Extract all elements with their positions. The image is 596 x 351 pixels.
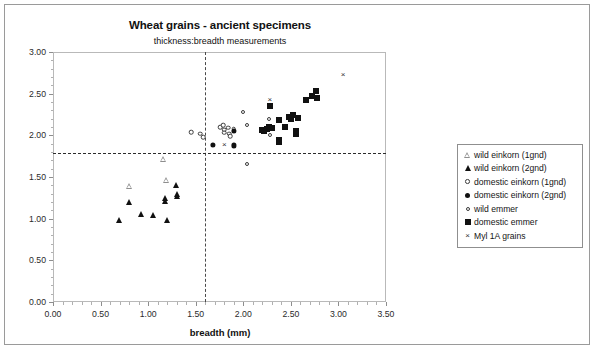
data-point <box>295 115 301 121</box>
marker-triangle-open-icon <box>126 183 132 189</box>
marker-circle-open-small-icon <box>241 110 245 114</box>
data-point <box>313 88 319 94</box>
x-axis-minor-tick <box>110 302 111 305</box>
data-point <box>126 199 132 205</box>
legend-item[interactable]: domestic einkorn (1gnd) <box>462 175 578 189</box>
x-axis-minor-tick <box>281 302 282 305</box>
y-axis-tick-mark <box>49 94 53 95</box>
x-axis-tick-label: 1.50 <box>187 309 204 319</box>
chart-frame: Wheat grains - ancient specimens thickne… <box>4 4 590 345</box>
chart-subtitle: thickness:breadth measurements <box>5 36 435 46</box>
data-point <box>245 123 249 127</box>
data-point: × <box>222 141 227 149</box>
x-axis-minor-tick <box>357 302 358 305</box>
marker-x-icon: × <box>341 71 346 79</box>
legend-item[interactable]: domestic emmer <box>462 216 578 230</box>
marker-x-icon: × <box>465 232 470 240</box>
marker-circle-open-icon <box>201 135 206 140</box>
y-axis-minor-tick <box>51 244 54 245</box>
data-point <box>231 143 236 148</box>
x-axis-minor-tick <box>272 302 273 305</box>
chart-legend: wild einkorn (1gnd)wild einkorn (2gnd)do… <box>457 144 583 248</box>
y-axis-tick-mark <box>49 219 53 220</box>
y-axis-tick-mark <box>49 135 53 136</box>
x-axis-tick-label: 3.00 <box>330 309 347 319</box>
data-point <box>245 162 249 166</box>
marker-square-filled-icon <box>293 131 299 137</box>
data-point <box>138 211 144 217</box>
x-axis-tick-label: 0.50 <box>92 309 109 319</box>
marker-triangle-filled-icon <box>150 212 156 218</box>
y-axis-minor-tick <box>51 252 54 253</box>
data-point <box>189 130 194 135</box>
x-axis-minor-tick <box>63 302 64 305</box>
legend-marker <box>462 190 473 201</box>
marker-triangle-filled-icon <box>164 217 170 223</box>
vertical-breadth-threshold <box>205 52 206 302</box>
legend-item[interactable]: wild emmer <box>462 202 578 216</box>
legend-item[interactable]: wild einkorn (1gnd) <box>462 148 578 162</box>
x-axis-minor-tick <box>329 302 330 305</box>
y-axis-minor-tick <box>51 77 54 78</box>
x-axis-minor-tick <box>234 302 235 305</box>
marker-square-filled-icon <box>295 115 301 121</box>
legend-item[interactable]: wild einkorn (2gnd) <box>462 162 578 176</box>
marker-circle-open-small-icon <box>245 162 249 166</box>
data-point <box>163 177 169 183</box>
x-axis-minor-tick <box>177 302 178 305</box>
marker-triangle-filled-icon <box>465 165 471 171</box>
x-axis-minor-tick <box>205 302 206 305</box>
data-point <box>241 110 245 114</box>
data-point <box>267 117 271 121</box>
marker-square-filled-icon <box>314 95 320 101</box>
data-point <box>231 129 236 134</box>
legend-label: wild emmer <box>473 204 518 214</box>
data-point <box>160 156 166 162</box>
data-point <box>210 142 215 147</box>
marker-circle-open-small-icon <box>267 117 271 121</box>
x-axis-minor-tick <box>91 302 92 305</box>
legend-marker <box>462 176 473 187</box>
marker-triangle-open-icon <box>160 156 166 162</box>
legend-marker <box>462 149 473 160</box>
marker-x-icon: × <box>222 141 227 149</box>
y-axis-minor-tick <box>51 269 54 270</box>
legend-label: Myl 1A grains <box>473 231 526 241</box>
chart-title: Wheat grains - ancient specimens <box>5 19 435 31</box>
x-axis-tick-mark <box>101 302 102 306</box>
x-axis-tick-mark <box>338 302 339 306</box>
legend-marker <box>462 203 473 214</box>
x-axis-minor-tick <box>300 302 301 305</box>
marker-square-filled-icon <box>276 117 282 123</box>
marker-circle-filled-icon <box>465 193 470 198</box>
x-axis-minor-tick <box>120 302 121 305</box>
x-axis-minor-tick <box>186 302 187 305</box>
x-axis-minor-tick <box>82 302 83 305</box>
y-axis-minor-tick <box>51 202 54 203</box>
legend-marker: × <box>462 230 473 241</box>
marker-triangle-filled-icon <box>126 199 132 205</box>
plot-border <box>53 52 386 302</box>
y-axis-minor-tick <box>51 235 54 236</box>
x-axis-minor-tick <box>167 302 168 305</box>
marker-triangle-filled-icon <box>116 217 122 223</box>
data-point: × <box>268 96 273 104</box>
x-axis-tick-mark <box>53 302 54 306</box>
plot-area: 0.000.501.001.502.002.503.000.000.501.00… <box>53 52 386 302</box>
marker-circle-filled-icon <box>210 142 215 147</box>
x-axis-minor-tick <box>376 302 377 305</box>
y-axis-tick-mark <box>49 52 53 53</box>
x-axis-minor-tick <box>139 302 140 305</box>
legend-label: domestic einkorn (1gnd) <box>473 177 566 187</box>
marker-circle-filled-icon <box>231 129 236 134</box>
y-axis-minor-tick <box>51 285 54 286</box>
x-axis-tick-label: 3.50 <box>378 309 395 319</box>
y-axis-minor-tick <box>51 144 54 145</box>
y-axis-minor-tick <box>51 127 54 128</box>
marker-circle-open-icon <box>228 134 233 139</box>
data-point <box>126 183 132 189</box>
marker-square-filled-icon <box>269 125 275 131</box>
legend-label: domestic emmer <box>473 217 538 227</box>
legend-item[interactable]: ×Myl 1A grains <box>462 229 578 243</box>
legend-item[interactable]: domestic einkorn (2gnd) <box>462 189 578 203</box>
